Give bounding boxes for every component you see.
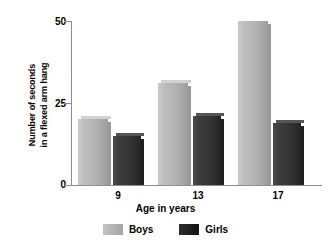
bar-chart: Number of seconds in a flexed arm hang 5… bbox=[0, 0, 331, 251]
legend-label-girls: Girls bbox=[205, 224, 228, 235]
x-tick-label-17: 17 bbox=[258, 190, 298, 202]
bar-boys-17 bbox=[238, 21, 268, 185]
legend-label-boys: Boys bbox=[129, 224, 153, 235]
legend-item-girls: Girls bbox=[179, 224, 228, 235]
y-axis-title-line-1: Number of seconds bbox=[27, 62, 39, 147]
bar-right-edge bbox=[268, 24, 271, 185]
boys-swatch-icon bbox=[103, 224, 123, 235]
bar-top-edge bbox=[276, 120, 304, 123]
bar-right-edge bbox=[188, 86, 191, 185]
bar-girls-17 bbox=[273, 123, 301, 185]
bar-boys-9 bbox=[78, 119, 108, 185]
bar-top-edge bbox=[196, 113, 224, 116]
y-axis-tick-0 bbox=[64, 185, 72, 186]
bar-girls-9 bbox=[113, 136, 141, 185]
x-tick-label-13: 13 bbox=[178, 190, 218, 202]
girls-swatch-icon bbox=[179, 224, 199, 235]
bar-girls-13 bbox=[193, 116, 221, 185]
bar-face bbox=[113, 136, 141, 185]
x-axis-line bbox=[71, 185, 322, 186]
y-tick-label-25: 25 bbox=[40, 99, 66, 109]
x-tick-label-9: 9 bbox=[98, 190, 138, 202]
x-axis-title: Age in years bbox=[0, 203, 331, 214]
y-tick-label-50: 50 bbox=[40, 17, 66, 27]
bar-top-edge bbox=[81, 116, 111, 119]
bar-face bbox=[78, 119, 108, 185]
y-tick-label-0: 0 bbox=[40, 180, 66, 190]
chart-legend: Boys Girls bbox=[0, 224, 331, 235]
bar-face bbox=[273, 123, 301, 185]
bar-boys-13 bbox=[158, 83, 188, 185]
bar-right-edge bbox=[221, 119, 224, 185]
bar-top-edge bbox=[116, 133, 144, 136]
plot-area bbox=[71, 21, 322, 185]
bar-right-edge bbox=[108, 122, 111, 185]
bar-right-edge bbox=[141, 139, 144, 185]
bar-face bbox=[238, 21, 268, 185]
legend-item-boys: Boys bbox=[103, 224, 153, 235]
bar-top-edge bbox=[161, 80, 191, 83]
bar-face bbox=[158, 83, 188, 185]
bar-right-edge bbox=[301, 126, 304, 185]
bar-face bbox=[193, 116, 221, 185]
